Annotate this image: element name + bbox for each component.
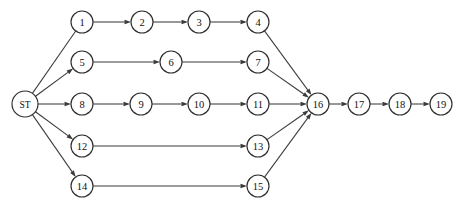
node-1[interactable]: 1 [71,11,93,33]
node-label-19: 19 [436,99,447,110]
node-2[interactable]: 2 [131,11,153,33]
node-9[interactable]: 9 [130,93,152,115]
arrowhead-icon-10-to-11 [241,102,248,106]
node-label-14: 14 [77,181,88,192]
arrowhead-icon-8-to-9 [124,102,131,106]
arrowhead-icon-14-to-15 [241,184,248,188]
arrowhead-icon-ST-to-12 [67,134,74,140]
arrowhead-icon-6-to-7 [241,60,248,64]
node-label-1: 1 [79,17,84,28]
node-13[interactable]: 13 [247,135,269,157]
node-4[interactable]: 4 [247,11,269,33]
node-ST[interactable]: ST [12,91,38,117]
edge-ST-to-1 [32,31,75,93]
node-15[interactable]: 15 [247,175,269,197]
edge-ST-to-5 [35,72,67,96]
arrowhead-icon-ST-to-14 [70,170,76,177]
node-label-5: 5 [79,57,84,68]
arrowhead-icon-ST-to-8 [65,102,72,106]
arrowhead-icon-7-to-16 [302,92,309,98]
edge-7-to-16 [267,68,304,94]
arrowhead-icon-3-to-4 [241,20,248,24]
node-label-17: 17 [354,99,365,110]
arrowhead-icon-12-to-13 [241,144,248,148]
node-18[interactable]: 18 [389,93,411,115]
node-label-16: 16 [313,99,324,110]
arrowhead-icon-2-to-3 [182,20,189,24]
node-label-15: 15 [253,181,264,192]
node-19[interactable]: 19 [430,93,452,115]
arrowhead-icon-4-to-16 [306,89,312,96]
node-label-12: 12 [77,141,88,152]
arrowhead-icon-15-to-16 [306,113,312,120]
node-7[interactable]: 7 [247,51,269,73]
node-label-13: 13 [253,141,264,152]
edge-ST-to-12 [35,112,67,136]
node-6[interactable]: 6 [160,51,182,73]
arrowhead-icon-11-to-16 [301,102,308,106]
arrowhead-icon-16-to-17 [342,102,349,106]
arrowhead-icon-9-to-10 [182,102,189,106]
node-label-6: 6 [168,57,173,68]
node-label-4: 4 [255,17,261,28]
node-17[interactable]: 17 [348,93,370,115]
node-11[interactable]: 11 [247,93,269,115]
arrowhead-icon-ST-to-5 [67,69,74,75]
node-label-7: 7 [255,57,260,68]
node-label-9: 9 [138,99,143,110]
node-10[interactable]: 10 [188,93,210,115]
node-label-3: 3 [196,17,201,28]
node-label-18: 18 [395,99,406,110]
node-16[interactable]: 16 [307,93,329,115]
node-label-2: 2 [139,17,144,28]
arrowhead-icon-13-to-16 [302,110,309,116]
node-8[interactable]: 8 [71,93,93,115]
node-12[interactable]: 12 [71,135,93,157]
edge-13-to-16 [267,114,304,140]
arrowhead-icon-1-to-2 [125,20,132,24]
arrowhead-icon-5-to-6 [154,60,161,64]
node-label-11: 11 [253,99,263,110]
node-5[interactable]: 5 [71,51,93,73]
arrowhead-icon-18-to-19 [424,102,431,106]
node-3[interactable]: 3 [188,11,210,33]
node-label-ST: ST [19,100,30,110]
node-14[interactable]: 14 [71,175,93,197]
network-diagram: ST12345678910111213141516171819 [0,0,459,206]
edge-ST-to-14 [32,115,72,172]
arrowhead-icon-17-to-18 [383,102,390,106]
node-label-10: 10 [194,99,205,110]
node-label-8: 8 [79,99,84,110]
